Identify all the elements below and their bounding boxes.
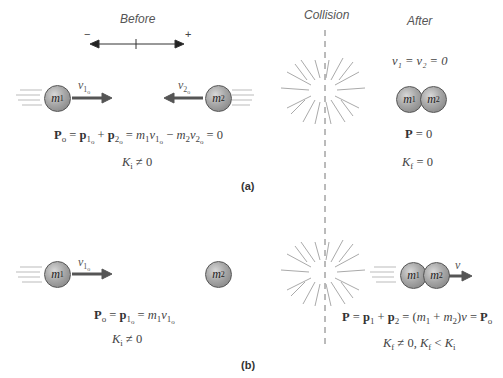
final-kinetic-energy: Kf = 0 [402,155,433,171]
velocity-label-v1o: v1o [78,78,90,95]
motion-lines-icon [370,267,396,282]
motion-lines-icon [16,267,42,282]
mass-subscript: 2 [221,270,225,279]
velocity-label-v: v [455,258,460,273]
ball-m1: m1 [44,261,71,288]
v-subsub: o [87,266,90,272]
final-kinetic-energy: Kf ≠ 0, Kf < Ki [383,336,455,352]
motion-lines-icon [16,90,42,105]
mass-subscript: 2 [439,271,443,280]
mass-symbol: m [427,92,436,107]
final-momentum-equation: P = p1 + p2 = (m1 + m2)v = Po [342,310,492,326]
mass-subscript: 1 [60,94,64,103]
mass-symbol: m [212,91,221,106]
collision-burst-icon [281,240,365,306]
motion-lines-icon [232,90,254,105]
panel-label-b: (b) [241,359,255,371]
ball-m1: m1 [44,85,71,112]
panel-label-a: (a) [241,180,254,192]
mass-subscript: 2 [221,94,225,103]
ball-m2: m2 [423,262,450,289]
mass-symbol: m [403,92,412,107]
mass-symbol: m [51,267,60,282]
mass-subscript: 2 [436,95,440,104]
ball-m1: m1 [396,86,423,113]
mass-symbol: m [407,268,416,283]
mass-subscript: 1 [60,270,64,279]
ball-m2: m2 [420,86,447,113]
mass-subscript: 1 [416,271,420,280]
mass-symbol: m [430,268,439,283]
direction-axis [90,39,184,49]
final-momentum-equation: P = 0 [405,127,432,142]
velocity-label-v2o: v2o [178,78,190,95]
ball-m2: m2 [205,261,232,288]
after-velocity-equation: v₁ = v₂ = 0 [392,54,447,69]
v-subsub: o [87,89,90,95]
initial-kinetic-energy: Ki ≠ 0 [112,332,142,348]
mass-symbol: m [51,91,60,106]
initial-kinetic-energy: Ki ≠ 0 [122,155,152,171]
v-subsub: o [187,89,190,95]
mass-subscript: 1 [412,95,416,104]
initial-momentum-equation: Po = p1o = m1v1o [94,308,175,326]
initial-momentum-equation: Po = p1o + p2o = m1v1o − m2v2o = 0 [54,128,223,146]
ball-m2: m2 [205,85,232,112]
velocity-label-v1o: v1o [78,255,90,272]
collision-burst-icon [281,58,365,124]
mass-symbol: m [212,267,221,282]
